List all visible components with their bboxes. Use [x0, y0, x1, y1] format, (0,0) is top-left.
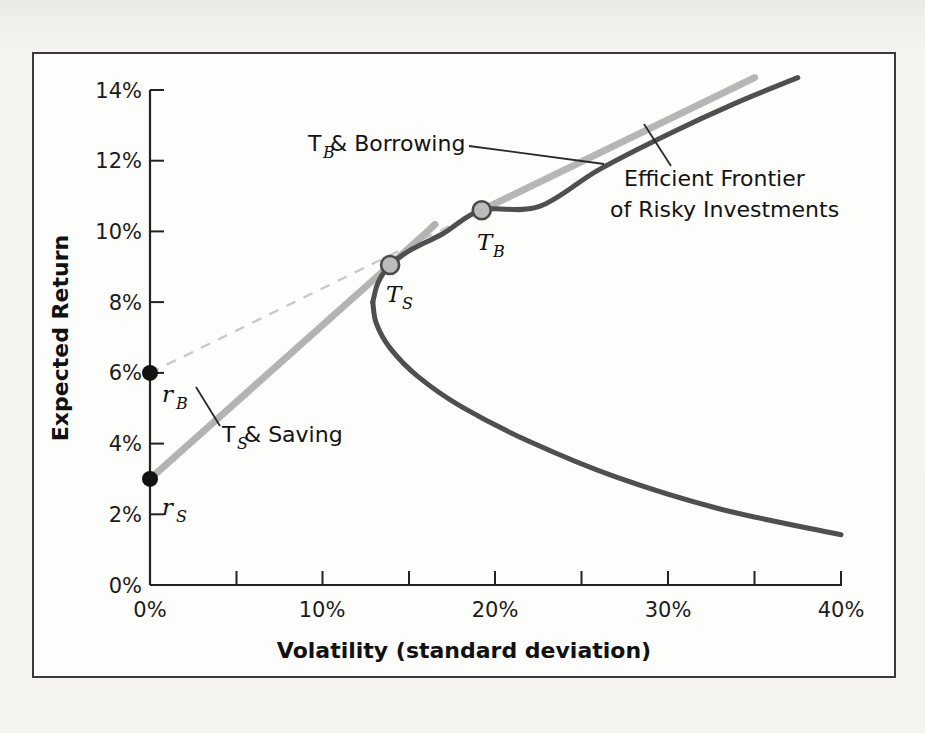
- marker-label-ts-sub: S: [402, 294, 413, 313]
- marker-label-rs: r S: [162, 494, 187, 526]
- x-tick-label-40: 40%: [818, 598, 865, 622]
- marker-label-ts: T S: [386, 281, 413, 313]
- annotation-ts-saving-base: T: [221, 422, 236, 447]
- marker-tb-circle: [473, 201, 491, 219]
- frontier-lower: [373, 302, 841, 535]
- marker-label-rb-sub: B: [175, 394, 188, 413]
- marker-label-tb: T B: [477, 229, 505, 261]
- annotation-tb-borrowing-rest: & Borrowing: [330, 131, 465, 156]
- marker-label-rs-sub: S: [176, 507, 187, 526]
- y-tick-label-14: 14%: [95, 79, 142, 103]
- y-tick-label-12: 12%: [95, 149, 142, 173]
- annotation-efficient-frontier-line1: Efficient Frontier: [624, 166, 806, 191]
- axis-lines: [150, 90, 842, 585]
- marker-label-rb-base: r: [162, 381, 175, 407]
- figure-frame: 14% 12% 10% 8% 6% 4% 2% 0% 0% 10% 20% 30…: [32, 52, 896, 678]
- y-axis-title: Expected Return: [48, 235, 73, 441]
- marker-ts-circle: [381, 256, 399, 274]
- marker-label-tb-base: T: [477, 229, 494, 255]
- y-axis-ticks: [150, 90, 164, 514]
- y-tick-label-8: 8%: [109, 291, 142, 315]
- annotation-tb-borrowing-base: T: [307, 131, 322, 156]
- x-tick-labels: 0% 10% 20% 30% 40%: [133, 598, 864, 622]
- annotation-efficient-frontier-line2: of Risky Investments: [610, 197, 839, 222]
- figure-page: 14% 12% 10% 8% 6% 4% 2% 0% 0% 10% 20% 30…: [0, 0, 925, 733]
- y-tick-labels: 14% 12% 10% 8% 6% 4% 2% 0%: [95, 79, 142, 598]
- marker-label-tb-sub: B: [492, 242, 505, 261]
- y-tick-label-2: 2%: [109, 503, 142, 527]
- x-tick-label-0: 0%: [133, 598, 166, 622]
- x-tick-label-10: 10%: [299, 598, 346, 622]
- x-axis-ticks: [237, 571, 842, 585]
- y-tick-label-6: 6%: [109, 361, 142, 385]
- chart-canvas: 14% 12% 10% 8% 6% 4% 2% 0% 0% 10% 20% 30…: [34, 54, 894, 676]
- annotation-ts-saving-leader: [196, 387, 220, 426]
- marker-label-rb: r B: [162, 381, 188, 413]
- annotation-tb-borrowing-leader: [469, 146, 604, 164]
- marker-label-ts-base: T: [386, 281, 403, 307]
- marker-rs-dot: [142, 471, 158, 487]
- x-axis-title: Volatility (standard deviation): [277, 638, 651, 663]
- y-tick-label-4: 4%: [109, 432, 142, 456]
- x-tick-label-20: 20%: [472, 598, 519, 622]
- x-tick-label-30: 30%: [645, 598, 692, 622]
- y-tick-label-0: 0%: [109, 574, 142, 598]
- y-tick-label-10: 10%: [95, 220, 142, 244]
- marker-rb-dot: [142, 365, 158, 381]
- annotation-efficient-frontier: Efficient Frontier of Risky Investments: [610, 124, 839, 222]
- annotation-tb-borrowing: T B & Borrowing: [307, 131, 604, 164]
- marker-label-rs-base: r: [162, 494, 175, 520]
- annotation-ts-saving-rest: & Saving: [244, 422, 343, 447]
